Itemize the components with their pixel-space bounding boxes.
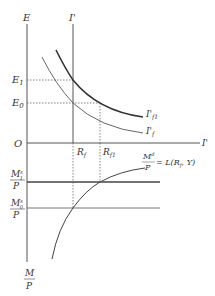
i-f-label: I'f: [145, 126, 156, 138]
curve-i-f1: [56, 50, 143, 117]
economics-diagram: E I' O I' E1 E0 I'f1 I'f Rf Rf1 Ms1 P Ms…: [0, 0, 215, 296]
rf-label: Rf: [76, 147, 88, 159]
e0-label: E0: [11, 97, 24, 110]
i-prime-axis-label: I': [201, 138, 208, 148]
curve-i-f: [42, 57, 143, 133]
svg-text:Ms1: Ms1: [10, 169, 23, 181]
svg-text:P: P: [12, 181, 20, 191]
svg-text:Ms0: Ms0: [10, 198, 24, 210]
svg-text:P: P: [25, 281, 33, 291]
m1-over-p-label: Ms1 P: [10, 169, 25, 191]
svg-text:P: P: [144, 163, 151, 172]
e1-label: E1: [11, 74, 24, 87]
svg-text:= L(Rf, Y): = L(Rf, Y): [156, 158, 195, 169]
origin-label: O: [14, 138, 22, 149]
money-demand-label: Md P = L(Rf, Y): [142, 151, 195, 172]
i-f1-label: I'f1: [145, 109, 158, 121]
e-axis-label: E: [22, 12, 31, 23]
svg-text:M: M: [24, 268, 35, 278]
svg-text:Md: Md: [142, 151, 154, 161]
m-over-p-axis-label: M P: [24, 268, 35, 291]
i-prime-top-label: I': [68, 12, 76, 23]
m0-over-p-label: Ms0 P: [10, 198, 25, 220]
rf1-label: Rf1: [102, 147, 116, 159]
svg-text:P: P: [12, 210, 20, 220]
